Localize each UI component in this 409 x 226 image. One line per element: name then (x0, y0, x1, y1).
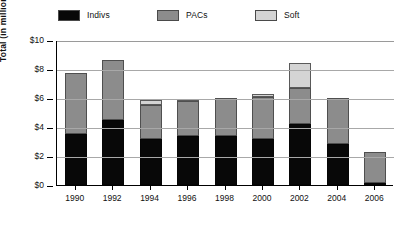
legend-swatch-indivs (58, 10, 80, 21)
y-tick-label-0: $0 (35, 181, 44, 190)
bar-segment-pacs-2000 (252, 97, 274, 139)
bar-segment-soft-2002 (289, 63, 311, 88)
x-tick-mark-2006 (374, 186, 375, 190)
bar-group-1998 (215, 40, 237, 185)
plot-area (56, 41, 393, 186)
x-tick-label-1996: 1996 (167, 193, 207, 203)
y-tick-label-8: $8 (35, 65, 44, 74)
gridline-8 (57, 70, 394, 71)
bar-segment-pacs-2002 (289, 88, 311, 124)
bar-segment-soft-1994 (140, 100, 162, 105)
y-tick-label-10: $10 (30, 36, 44, 45)
bar-group-2000 (252, 40, 274, 185)
y-tick-mark-4 (47, 128, 53, 129)
legend-label-indivs: Indivs (87, 10, 110, 21)
x-tick-mark-1990 (75, 186, 76, 190)
y-tick-label-6: $6 (35, 94, 44, 103)
bar-segment-pacs-1994 (140, 105, 162, 138)
legend-item-pacs: PACs (157, 8, 208, 22)
x-tick-label-2004: 2004 (317, 193, 357, 203)
x-tick-label-1994: 1994 (130, 193, 170, 203)
x-axis: 199019921994199619982000200220042006 (56, 186, 393, 214)
y-tick-mark-2 (47, 157, 53, 158)
x-tick-label-1998: 1998 (205, 193, 245, 203)
legend-label-soft: Soft (284, 10, 300, 21)
bar-segment-soft-2000 (252, 94, 274, 96)
bar-segment-pacs-1996 (177, 101, 199, 136)
y-tick-mark-8 (47, 70, 53, 71)
y-tick-label-4: $4 (35, 123, 44, 132)
stacked-bar-chart: Indivs PACs Soft Total (in millions) $10… (0, 0, 409, 226)
x-tick-mark-2002 (299, 186, 300, 190)
legend-item-indivs: Indivs (58, 8, 110, 22)
bars-container (57, 40, 394, 185)
gridline-4 (57, 128, 394, 129)
bar-segment-pacs-1998 (215, 98, 237, 136)
x-tick-mark-2004 (337, 186, 338, 190)
bar-segment-pacs-2004 (327, 98, 349, 144)
x-tick-mark-1994 (150, 186, 151, 190)
bar-segment-indivs-1994 (140, 139, 162, 185)
bar-group-2002 (289, 40, 311, 185)
bar-group-1994 (140, 40, 162, 185)
bar-segment-indivs-2004 (327, 144, 349, 185)
x-tick-label-2000: 2000 (242, 193, 282, 203)
y-tick-mark-0 (47, 186, 53, 187)
legend-item-soft: Soft (255, 8, 300, 22)
x-tick-label-2006: 2006 (354, 193, 394, 203)
gridline-10 (57, 41, 394, 42)
bar-segment-indivs-2000 (252, 139, 274, 185)
bar-group-1992 (102, 40, 124, 185)
bar-group-1990 (65, 40, 87, 185)
bar-segment-indivs-1998 (215, 136, 237, 185)
gridline-2 (57, 157, 394, 158)
gridline-6 (57, 99, 394, 100)
bar-segment-indivs-1992 (102, 120, 124, 185)
bar-segment-pacs-1990 (65, 73, 87, 134)
x-tick-label-1992: 1992 (92, 193, 132, 203)
y-tick-mark-6 (47, 99, 53, 100)
bar-segment-indivs-1996 (177, 136, 199, 185)
x-tick-mark-1996 (187, 186, 188, 190)
x-tick-mark-1992 (112, 186, 113, 190)
legend-label-pacs: PACs (186, 10, 208, 21)
bar-group-2006 (364, 40, 386, 185)
x-tick-label-1990: 1990 (55, 193, 95, 203)
x-tick-mark-1998 (225, 186, 226, 190)
legend-swatch-soft (255, 10, 277, 21)
bar-group-2004 (327, 40, 349, 185)
legend-swatch-pacs (157, 10, 179, 21)
x-tick-mark-2000 (262, 186, 263, 190)
x-tick-label-2002: 2002 (279, 193, 319, 203)
bar-segment-indivs-2002 (289, 124, 311, 185)
bar-segment-indivs-2006 (364, 183, 386, 185)
y-axis-labels: $10$8$6$4$2$0 (0, 0, 56, 190)
bar-group-1996 (177, 40, 199, 185)
chart-legend: Indivs PACs Soft (0, 6, 409, 26)
y-tick-label-2: $2 (35, 152, 44, 161)
y-tick-mark-10 (47, 41, 53, 42)
bar-segment-indivs-1990 (65, 134, 87, 185)
